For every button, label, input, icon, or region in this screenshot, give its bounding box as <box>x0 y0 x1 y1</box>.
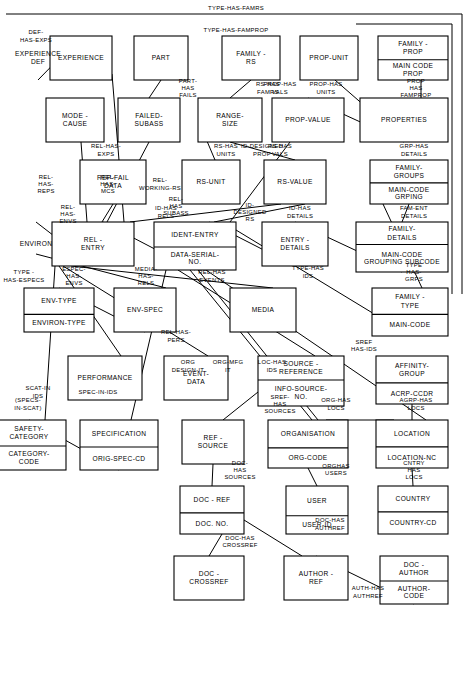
relationship-label: ID-HASDETAILS <box>287 205 313 218</box>
relationship-label: REL-HASEVENTS <box>198 269 226 282</box>
entity-name: RS-VALUE <box>277 178 313 185</box>
entity-env_spec[interactable]: ENV-SPEC <box>114 288 176 332</box>
entity-box <box>80 420 158 470</box>
relationship-label: GRP-HASDETAILS <box>400 143 429 156</box>
relationship-label: (SPECS-IN-SCAT) <box>14 397 42 410</box>
entity-ident_entry[interactable]: IDENT-ENTRYDATA-SERIAL-NO. <box>154 222 236 270</box>
entity-attribute: ACRP-CCDR <box>391 390 434 397</box>
entity-name: IDENT-ENTRY <box>171 231 219 238</box>
entity-name: ORGANISATION <box>281 430 335 437</box>
entity-name: DOC - REF <box>194 496 231 503</box>
entity-name: PROPERTIES <box>381 116 427 123</box>
relationship-line <box>230 80 251 98</box>
entity-author_ref[interactable]: AUTHOR -REF <box>284 556 348 600</box>
entity-attribute: COUNTRY-CD <box>389 519 436 526</box>
entity-name: PROP-VALUE <box>285 116 331 123</box>
entity-properties[interactable]: PROPERTIES <box>360 98 448 142</box>
entity-name: LOCATION <box>394 430 430 437</box>
entity-family_type[interactable]: FAMILY -TYPEMAIN-CODE <box>372 288 448 336</box>
entity-family_groups[interactable]: FAMILY-GROUPSMAIN-CODEGRPING <box>370 160 448 204</box>
relationship-label: TYPEHAS-GRPS <box>405 262 423 282</box>
entity-name: ENV-TYPE <box>41 298 77 305</box>
entity-name: SPECIFICATION <box>92 430 147 437</box>
entity-ref_source[interactable]: REF -SOURCE <box>182 420 244 464</box>
entity-attribute: ORIG-SPEC-CD <box>93 455 146 462</box>
entity-doc_crossref[interactable]: DOC -CROSSREF <box>174 556 244 600</box>
entity-organisation[interactable]: ORGANISATIONORG-CODE <box>268 420 348 468</box>
entity-attribute: ORG-CODE <box>288 454 327 461</box>
entity-experience[interactable]: EXPERIENCE <box>50 36 112 80</box>
relationship-label: MEDIA-HAS-RELS <box>135 266 157 286</box>
entity-name: PART <box>152 54 170 61</box>
entity-specification[interactable]: SPECIFICATIONORIG-SPEC-CD <box>80 420 158 470</box>
relationship-line <box>209 534 222 556</box>
relationship-label: CNTRYHASLOCS <box>403 460 425 480</box>
er-diagram-svg: FAMILY -PROPMAIN CODEPROPPROP-UNITFAMILY… <box>0 0 476 698</box>
entity-rs_value[interactable]: RS-VALUE <box>264 160 326 204</box>
entity-failed_subass[interactable]: FAILED-SUBASS <box>118 98 180 142</box>
relationship-label: AUTH-HASAUTHREF <box>352 585 385 598</box>
entity-range_size[interactable]: RANGE-SIZE <box>198 98 262 142</box>
entity-mode_cause[interactable]: MODE -CAUSE <box>46 98 104 142</box>
entity-rs_unit[interactable]: RS-UNIT <box>182 160 240 204</box>
entity-part[interactable]: PART <box>134 36 188 80</box>
entity-name: MEDIA <box>252 306 275 313</box>
entity-attribute: DOC. NO. <box>196 520 229 527</box>
entity-name: ENV-SPEC <box>127 306 163 313</box>
entity-environ[interactable]: ENVIRON <box>20 240 53 247</box>
entity-safety_category[interactable]: SAFETY-CATEGORYCATEGORY-CODE <box>0 420 66 470</box>
entity-family_details[interactable]: FAMILY-DETAILSMAIN-CODEGROUPING SUBCODE <box>356 222 448 272</box>
relationship-label: PROP-HASUNITS <box>309 81 342 94</box>
entity-name: MODE -CAUSE <box>62 112 88 127</box>
entity-box <box>378 486 448 534</box>
entity-name: ENTRY -DETAILS <box>280 236 310 251</box>
relationship-label: TYPE -HAS-ESPECS <box>4 269 45 282</box>
entity-box <box>180 486 244 534</box>
relationship-label: DOC-HASAUTHREF <box>315 517 345 530</box>
entity-name: RS-UNIT <box>196 178 225 185</box>
entity-media[interactable]: MEDIA <box>230 288 296 332</box>
entity-rel_entry[interactable]: REL -ENTRY <box>52 222 134 266</box>
entity-name: REL -ENTRY <box>81 236 105 251</box>
entity-name: COUNTRY <box>396 495 431 502</box>
relationship-label: REL-HAS-ENVS <box>59 204 76 224</box>
relationship-label: TYPE-HASIDS <box>292 265 324 278</box>
relationship-label: REL-HAS-PERS <box>161 329 191 342</box>
relationship-label: ESPEC-HAS-ENVS <box>62 266 86 286</box>
entity-family_prop[interactable]: FAMILY -PROPMAIN CODEPROP <box>378 36 448 80</box>
relationship-label: RS-HASFAMRS <box>256 81 280 94</box>
relationship-label: ID-DESIGNEDRS <box>233 202 266 222</box>
entity-name: USER <box>307 497 327 504</box>
entity-name: PROP-UNIT <box>309 54 348 61</box>
entity-entry_details[interactable]: ENTRY -DETAILS <box>262 222 328 266</box>
relationship-label: TYPE-HAS-FAMPROP <box>203 27 268 33</box>
rotated-diagram-layer: FAMILY -PROPMAIN CODEPROPPROP-UNITFAMILY… <box>0 0 476 698</box>
relationship-label: REL-HAS-MCS <box>100 174 115 194</box>
entity-family_rs[interactable]: FAMILY -RS <box>222 36 280 80</box>
entity-prop_value[interactable]: PROP-VALUE <box>272 98 344 142</box>
relationship-line <box>308 468 317 486</box>
entity-name: ENVIRON <box>20 240 53 247</box>
relationship-label: ORGHASUSERS <box>322 463 349 476</box>
relationship-line <box>149 80 161 98</box>
entity-name: FAILED-SUBASS <box>135 112 164 127</box>
entity-env_type[interactable]: ENV-TYPEENVIRON-TYPE <box>24 288 94 332</box>
entity-country[interactable]: COUNTRYCOUNTRY-CD <box>378 486 448 534</box>
entity-doc_ref[interactable]: DOC - REFDOC. NO. <box>180 486 244 534</box>
entity-prop_unit[interactable]: PROP-UNIT <box>300 36 358 80</box>
relationship-label: DOC-HASCROSSREF <box>222 535 257 548</box>
entity-name: EXPERIENCE <box>58 54 104 61</box>
relationship-label: RS-HASVALS <box>268 143 292 156</box>
relationship-label: PART-HASFAILS <box>179 78 197 98</box>
relationship-label: TYPE-HAS-FAMRS <box>208 5 264 11</box>
entity-name: FAMILY-GROUPS <box>394 164 425 179</box>
relationship-label: PROPHASFAMPROP <box>401 78 432 98</box>
entity-doc_author[interactable]: DOC -AUTHORAUTHOR-CODE <box>380 556 448 604</box>
entity-name: AFFINITY-GROUP <box>395 362 429 377</box>
relationship-line <box>212 464 213 486</box>
relationship-label: SPEC-IN-IDS <box>79 389 118 395</box>
entity-name: FAMILY-DETAILS <box>387 225 417 240</box>
relationship-label: DEF-HAS-EXPS <box>20 29 52 42</box>
relationship-label: REL-HAS-EXPS <box>91 143 121 156</box>
relationship-label: REL-HAS-REPS <box>37 174 54 194</box>
